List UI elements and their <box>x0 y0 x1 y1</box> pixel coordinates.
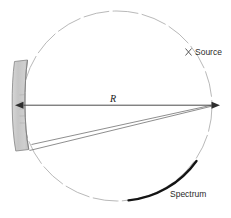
rowland-circle <box>22 11 212 201</box>
source-marker-icon <box>186 49 192 56</box>
source-label: Source <box>195 47 222 57</box>
radius-label: R <box>109 93 116 104</box>
spectrum-label: Spectrum <box>170 189 206 199</box>
ray-lower <box>30 106 213 151</box>
diagram-canvas: R Source Spectrum <box>0 0 231 218</box>
ray-upper <box>32 105 213 145</box>
rowland-circle-diagram: R Source Spectrum <box>0 0 231 218</box>
